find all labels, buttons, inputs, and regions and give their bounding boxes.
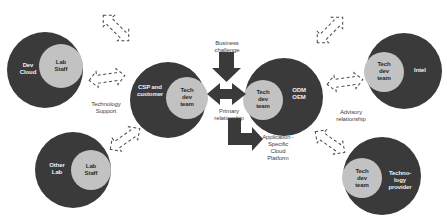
other-lab-label: Other Lab <box>43 162 71 176</box>
tech-provider-tech-dev-team-label: Tech dev team <box>348 168 376 189</box>
intel-tech-dev-team-label: Tech dev team <box>370 61 398 82</box>
odm-label: ODM OEM <box>285 87 313 101</box>
dev-cloud-label: Dev Cloud <box>14 62 42 76</box>
other-lab-lab-staff-label: Lab Staff <box>77 163 105 177</box>
business-challenge-label: Business challenge <box>204 40 250 54</box>
dashed-arrow-tech-support <box>88 68 126 89</box>
down-arrow <box>212 52 241 82</box>
dashed-arrow-advisory <box>326 72 364 93</box>
primary-relationship-label: Primary relationship <box>206 108 252 122</box>
advisory-relationship-label: Advisory relationship <box>328 109 374 123</box>
dev-cloud-lab-staff-label: Lab Staff <box>47 59 75 73</box>
technology-support-label: Technology Support <box>84 101 128 115</box>
dashed-arrow-tech-provider <box>311 125 350 159</box>
intel-label: Intel <box>406 67 434 74</box>
csp-label: CSP and customer <box>132 84 168 98</box>
csp-tech-dev-team-label: Tech dev team <box>173 87 201 108</box>
tech-provider-label: Techno- logy provider <box>383 170 417 191</box>
odm-tech-dev-team-label: Tech dev team <box>249 89 277 110</box>
dashed-arrow-other-lab <box>106 122 145 156</box>
double-arrow <box>207 83 246 105</box>
application-label: Application - Specific Cloud Platform <box>254 134 302 162</box>
dashed-arrow-top-left <box>98 10 135 47</box>
dashed-arrow-top-right <box>312 12 349 49</box>
